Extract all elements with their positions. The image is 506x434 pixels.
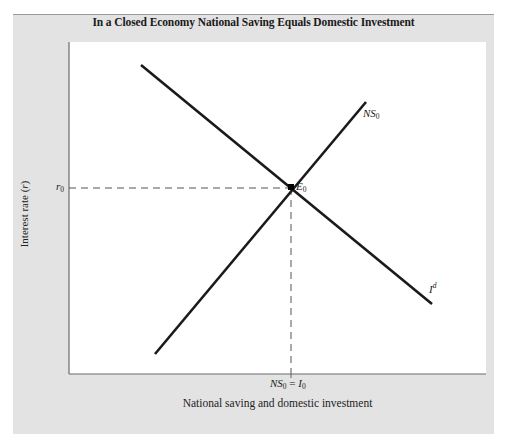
equilibrium-label: E0 xyxy=(296,180,306,194)
chart-svg xyxy=(0,0,506,434)
y-tick-label-r0: r0 xyxy=(56,180,64,194)
id-curve-label: Id xyxy=(429,281,436,295)
equilibrium-point xyxy=(288,184,294,190)
x-tick-label: NS0 = I0 xyxy=(270,377,306,391)
national-saving-curve xyxy=(155,102,366,354)
investment-demand-curve xyxy=(141,65,432,304)
x-axis-label: National saving and domestic investment xyxy=(69,397,486,409)
y-axis-label: Interest rate (r) xyxy=(18,181,30,248)
ns0-curve-label: NS0 xyxy=(363,107,380,121)
